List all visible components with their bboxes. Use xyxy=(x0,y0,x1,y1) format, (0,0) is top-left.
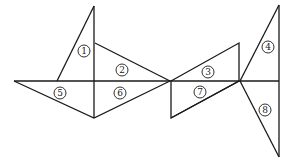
label-6: 6 xyxy=(114,87,126,99)
label-2: 2 xyxy=(116,64,128,76)
label-8: 8 xyxy=(259,104,271,116)
svg-text:8: 8 xyxy=(262,105,268,115)
label-5: 5 xyxy=(54,87,66,99)
label-4: 4 xyxy=(262,41,274,53)
triangle-figure: 1 2 3 4 5 6 7 8 xyxy=(0,0,291,164)
triangle-8-edge xyxy=(240,81,279,157)
label-7: 7 xyxy=(194,86,206,98)
svg-text:2: 2 xyxy=(119,65,125,75)
triangle-1-edge xyxy=(57,6,94,81)
triangle-4-edge xyxy=(240,5,279,81)
triangles-5-6-edges xyxy=(14,81,170,118)
triangle-2-edge xyxy=(95,43,170,81)
svg-text:6: 6 xyxy=(117,88,123,98)
label-1: 1 xyxy=(78,45,90,57)
svg-text:1: 1 xyxy=(81,46,87,56)
svg-text:5: 5 xyxy=(57,88,63,98)
label-3: 3 xyxy=(202,66,214,78)
triangle-7-diagonal xyxy=(171,81,239,118)
svg-text:7: 7 xyxy=(197,87,203,97)
svg-text:3: 3 xyxy=(205,67,211,77)
svg-text:4: 4 xyxy=(265,42,271,52)
